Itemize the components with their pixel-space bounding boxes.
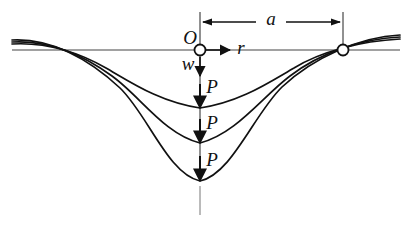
deflection-axis-label: w xyxy=(182,53,195,74)
load-label-2: P xyxy=(205,112,218,133)
plate-deflection-figure: a r w P P P O xyxy=(0,0,412,226)
edge-support-marker xyxy=(338,45,349,56)
load-label-1: P xyxy=(205,76,218,97)
figure-canvas: a r w P P P O xyxy=(0,0,412,226)
load-label-3: P xyxy=(205,149,218,170)
origin-label: O xyxy=(183,27,197,48)
radial-axis-label: r xyxy=(237,37,245,58)
dimension-label-radius: a xyxy=(266,8,276,29)
